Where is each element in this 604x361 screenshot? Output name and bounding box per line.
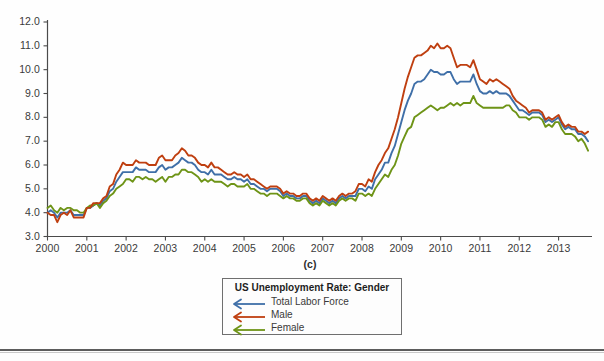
legend-title: US Unemployment Rate: Gender xyxy=(227,282,397,294)
legend-label: Male xyxy=(271,309,293,321)
y-tick-label: 4.0 xyxy=(8,206,40,218)
legend-entry[interactable]: Female xyxy=(227,321,397,334)
x-tick-label: 2011 xyxy=(460,242,500,254)
chart-legend: US Unemployment Rate: Gender Total Labor… xyxy=(222,278,402,335)
page-divider-rule xyxy=(0,349,604,351)
x-tick-label: 2001 xyxy=(67,242,107,254)
x-tick-label: 2004 xyxy=(185,242,225,254)
x-tick-label: 2012 xyxy=(499,242,539,254)
legend-entry[interactable]: Male xyxy=(227,308,397,321)
x-tick-label: 2006 xyxy=(263,242,303,254)
x-tick-label: 2002 xyxy=(106,242,146,254)
y-tick-label: 7.0 xyxy=(8,134,40,146)
x-tick-label: 2003 xyxy=(145,242,185,254)
legend-entry[interactable]: Total Labor Force xyxy=(227,295,397,308)
x-tick-label: 2010 xyxy=(421,242,461,254)
legend-arrow-line-icon xyxy=(229,296,267,308)
x-tick-label: 2007 xyxy=(303,242,343,254)
series-line xyxy=(48,96,589,213)
y-tick-label: 10.0 xyxy=(8,63,40,75)
series-line xyxy=(48,70,589,218)
x-tick-label: 2013 xyxy=(539,242,579,254)
series-line xyxy=(48,43,589,222)
panel-caption: (c) xyxy=(290,258,330,270)
y-tick-label: 6.0 xyxy=(8,158,40,170)
axis-lines xyxy=(44,20,593,241)
unemployment-rate-figure: 3.04.05.06.07.08.09.010.011.012.0 200020… xyxy=(0,0,604,361)
x-tick-label: 2009 xyxy=(381,242,421,254)
y-tick-label: 5.0 xyxy=(8,182,40,194)
data-series-group xyxy=(48,43,589,222)
legend-arrow-line-icon xyxy=(229,322,267,334)
y-tick-label: 3.0 xyxy=(8,230,40,242)
x-tick-label: 2000 xyxy=(28,242,68,254)
y-tick-label: 9.0 xyxy=(8,87,40,99)
x-tick-label: 2008 xyxy=(342,242,382,254)
y-tick-label: 8.0 xyxy=(8,110,40,122)
x-tick-label: 2005 xyxy=(224,242,264,254)
page-divider-rule-shadow xyxy=(0,352,604,353)
x-axis-ticks xyxy=(48,237,559,241)
legend-arrow-line-icon xyxy=(229,309,267,321)
legend-label: Female xyxy=(271,322,304,334)
y-tick-label: 12.0 xyxy=(8,15,40,27)
y-tick-label: 11.0 xyxy=(8,39,40,51)
legend-entries: Total Labor ForceMaleFemale xyxy=(227,295,397,334)
legend-label: Total Labor Force xyxy=(271,296,349,308)
